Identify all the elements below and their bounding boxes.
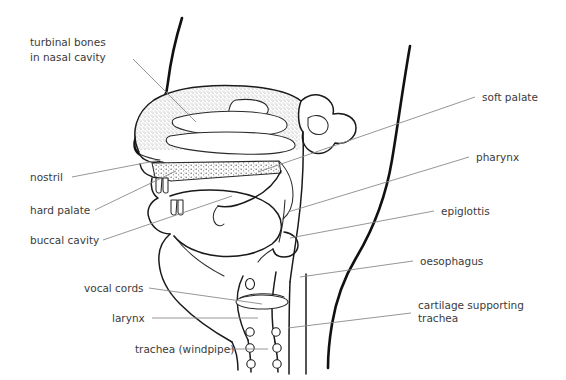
anatomy-diagram: turbinal bones in nasal cavity nostril h… bbox=[0, 0, 566, 380]
tongue-outline bbox=[170, 190, 281, 257]
label-trachea-windpipe: trachea (windpipe) bbox=[135, 343, 234, 355]
vocal-cords-glottis bbox=[236, 295, 288, 309]
trachea-group bbox=[246, 328, 281, 372]
nasal-cavity-group bbox=[130, 80, 310, 160]
cartilage-ring bbox=[273, 360, 281, 368]
sphenoid-bone-group bbox=[299, 95, 356, 154]
cartilage-ring bbox=[273, 344, 281, 352]
label-larynx: larynx bbox=[112, 312, 145, 324]
label-nostril: nostril bbox=[30, 171, 63, 183]
label-pharynx: pharynx bbox=[476, 151, 519, 163]
cartilage-ring bbox=[246, 344, 254, 352]
inferior-turbinate bbox=[166, 132, 295, 154]
back-of-head-outline bbox=[328, 46, 410, 368]
cartilage-ring bbox=[272, 328, 280, 336]
label-vocal-cords: vocal cords bbox=[84, 282, 144, 294]
leader-oesophagus bbox=[300, 261, 413, 277]
cartilage-ring bbox=[246, 328, 254, 336]
pharynx-posterior-wall bbox=[290, 132, 303, 282]
label-cartilage-trachea-line1: cartilage supporting bbox=[418, 299, 524, 311]
leader-epiglottis bbox=[290, 211, 434, 238]
label-cartilage-trachea-line2: trachea bbox=[418, 312, 458, 324]
labels-right-group: soft palate pharynx epiglottis oesophagu… bbox=[418, 91, 538, 324]
label-epiglottis: epiglottis bbox=[441, 205, 490, 217]
diagram-canvas: turbinal bones in nasal cavity nostril h… bbox=[0, 0, 566, 380]
arytenoid-cartilage bbox=[246, 279, 255, 290]
tongue-buccal-group bbox=[170, 190, 281, 276]
label-buccal-cavity: buccal cavity bbox=[30, 234, 99, 246]
cartilage-ring bbox=[247, 360, 255, 368]
epiglottis-outline bbox=[273, 232, 298, 257]
label-oesophagus: oesophagus bbox=[420, 255, 483, 267]
label-turbinal-bones-line1: turbinal bones bbox=[30, 36, 106, 48]
upper-teeth-second bbox=[163, 178, 168, 193]
pharynx-anterior-wall bbox=[279, 200, 285, 242]
uvula bbox=[213, 206, 224, 226]
oesophagus-group bbox=[289, 274, 306, 374]
sphenoid-inner-notch bbox=[308, 116, 328, 135]
label-hard-palate: hard palate bbox=[30, 204, 90, 216]
label-turbinal-bones-line2: in nasal cavity bbox=[30, 51, 106, 63]
soft-palate-inner-edge bbox=[279, 161, 293, 219]
label-soft-palate: soft palate bbox=[482, 91, 538, 103]
leader-pharynx bbox=[288, 157, 469, 212]
sphenoid-bone bbox=[299, 95, 356, 154]
labels-left-group: turbinal bones in nasal cavity nostril h… bbox=[30, 36, 234, 355]
lower-teeth bbox=[171, 200, 177, 215]
